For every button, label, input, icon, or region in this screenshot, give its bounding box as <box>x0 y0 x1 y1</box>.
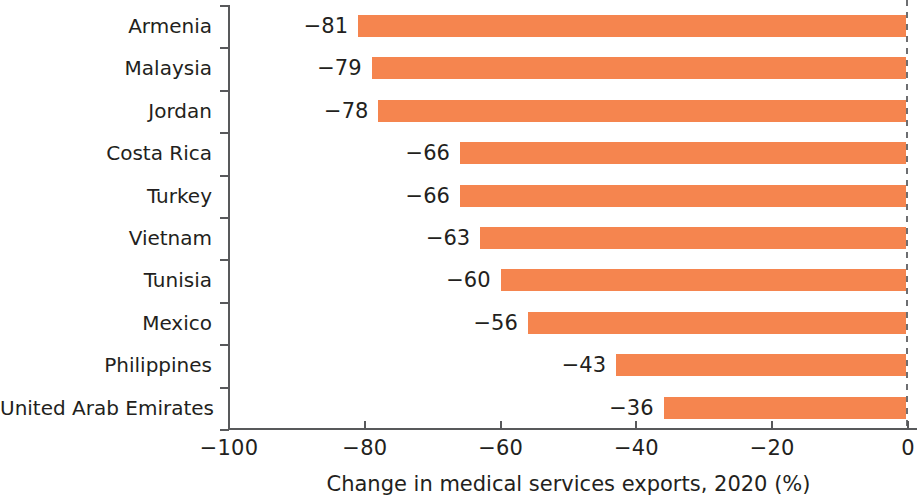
bar <box>378 100 906 122</box>
bar-chart: Armenia−81Malaysia−79Jordan−78Costa Rica… <box>0 0 917 504</box>
x-axis-tick <box>635 421 637 429</box>
x-axis-title: Change in medical services exports, 2020… <box>229 472 908 496</box>
category-label: Jordan <box>0 90 212 132</box>
bar <box>480 227 906 249</box>
x-axis-tick <box>364 421 366 429</box>
x-axis-tick-label: −100 <box>200 436 258 460</box>
y-axis-tick <box>220 387 229 389</box>
category-label: Vietnam <box>0 217 212 259</box>
x-axis-tick-label: −20 <box>750 436 795 460</box>
y-axis-tick <box>220 302 229 304</box>
x-axis-tick <box>771 421 773 429</box>
bar-value-label: −36 <box>609 387 653 429</box>
category-label: Malaysia <box>0 47 212 89</box>
y-axis-tick <box>220 90 229 92</box>
bar-row: Tunisia−60 <box>0 259 917 301</box>
bar-value-label: −66 <box>406 132 450 174</box>
y-axis-tick <box>220 5 229 7</box>
x-axis-tick <box>907 421 909 429</box>
bar-value-label: −66 <box>406 175 450 217</box>
y-axis-tick <box>220 429 229 431</box>
bar-value-label: −81 <box>304 5 348 47</box>
x-axis-tick-label: −60 <box>478 436 523 460</box>
x-axis-line <box>229 428 917 430</box>
bar-row: Armenia−81 <box>0 5 917 47</box>
bar <box>358 15 906 37</box>
bar-row: United Arab Emirates−36 <box>0 387 917 429</box>
bar-value-label: −56 <box>473 302 517 344</box>
bar-row: Vietnam−63 <box>0 217 917 259</box>
bar-value-label: −60 <box>446 259 490 301</box>
y-axis-tick <box>220 344 229 346</box>
bar <box>501 269 906 291</box>
y-axis-tick <box>220 47 229 49</box>
category-label: Turkey <box>0 175 212 217</box>
y-axis-tick <box>220 217 229 219</box>
bar <box>460 142 906 164</box>
bar <box>664 397 906 419</box>
bar <box>528 312 906 334</box>
bar-value-label: −79 <box>317 47 361 89</box>
x-axis-tick-label: 0 <box>901 436 915 460</box>
x-axis-tick <box>228 421 230 429</box>
bar-row: Philippines−43 <box>0 344 917 386</box>
category-label: United Arab Emirates <box>0 387 212 429</box>
y-axis-tick <box>220 132 229 134</box>
x-axis-tick-label: −80 <box>342 436 387 460</box>
bar-row: Costa Rica−66 <box>0 132 917 174</box>
x-axis-tick <box>500 421 502 429</box>
bar-row: Mexico−56 <box>0 302 917 344</box>
bar <box>372 57 906 79</box>
category-label: Tunisia <box>0 259 212 301</box>
bar-row: Turkey−66 <box>0 175 917 217</box>
bar <box>616 354 906 376</box>
bar <box>460 185 906 207</box>
category-label: Mexico <box>0 302 212 344</box>
bar-value-label: −78 <box>324 90 368 132</box>
y-axis-tick <box>220 259 229 261</box>
bar-value-label: −43 <box>562 344 606 386</box>
bar-row: Malaysia−79 <box>0 47 917 89</box>
x-axis-tick-label: −40 <box>614 436 659 460</box>
y-axis-tick <box>220 175 229 177</box>
category-label: Costa Rica <box>0 132 212 174</box>
category-label: Philippines <box>0 344 212 386</box>
bar-value-label: −63 <box>426 217 470 259</box>
bar-row: Jordan−78 <box>0 90 917 132</box>
category-label: Armenia <box>0 5 212 47</box>
